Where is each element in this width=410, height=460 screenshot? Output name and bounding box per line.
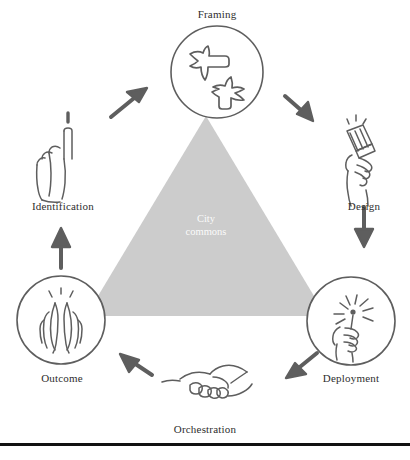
- arrow-identification-to-framing: [111, 88, 147, 117]
- bottom-divider: [0, 443, 410, 446]
- node-orchestration[interactable]: [162, 365, 252, 398]
- arrow-outcome-to-identification: [52, 228, 70, 268]
- cycle-diagram: Framing Design Deployment Orchestration …: [0, 0, 410, 460]
- node-label-identification: Identification: [8, 200, 118, 212]
- node-label-orchestration: Orchestration: [145, 423, 265, 435]
- node-label-design: Design: [324, 200, 404, 212]
- node-identification[interactable]: [37, 113, 72, 202]
- handshake-icon: [162, 365, 252, 398]
- node-label-framing: Framing: [157, 8, 277, 20]
- node-outcome[interactable]: [17, 276, 105, 364]
- node-deployment[interactable]: [307, 277, 395, 365]
- hand-paintbrush-icon: [346, 115, 375, 206]
- pointing-up-hand-icon: [37, 113, 72, 202]
- node-framing[interactable]: [171, 26, 263, 118]
- node-label-outcome: Outcome: [16, 372, 108, 384]
- framing-circle: [171, 26, 263, 118]
- city-commons-line2: commons: [156, 225, 256, 238]
- arrow-design-to-deployment: [355, 207, 373, 247]
- arrow-framing-to-design: [285, 96, 313, 121]
- arrow-orchestration-to-outcome: [120, 354, 152, 375]
- city-commons-line1: City: [156, 212, 256, 225]
- node-design[interactable]: [346, 115, 375, 206]
- city-commons-label: City commons: [156, 212, 256, 238]
- node-label-deployment: Deployment: [296, 372, 406, 384]
